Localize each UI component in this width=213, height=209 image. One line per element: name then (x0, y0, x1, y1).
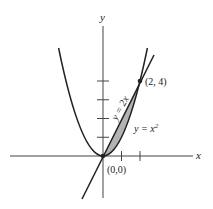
parabola-equation-label: y = x2 (133, 122, 159, 134)
intersection-point (138, 79, 143, 84)
y-axis-label: y (99, 11, 105, 23)
x-axis-label: x (195, 149, 201, 161)
diagram: y x (0,0) (2, 4) y = 2x y = x2 (0, 0, 213, 209)
origin-point (101, 154, 106, 159)
parabola-equation-text: y = x (133, 123, 155, 134)
origin-label: (0,0) (107, 164, 126, 176)
parabola-exponent: 2 (155, 122, 159, 130)
intersection-label: (2, 4) (145, 76, 167, 88)
